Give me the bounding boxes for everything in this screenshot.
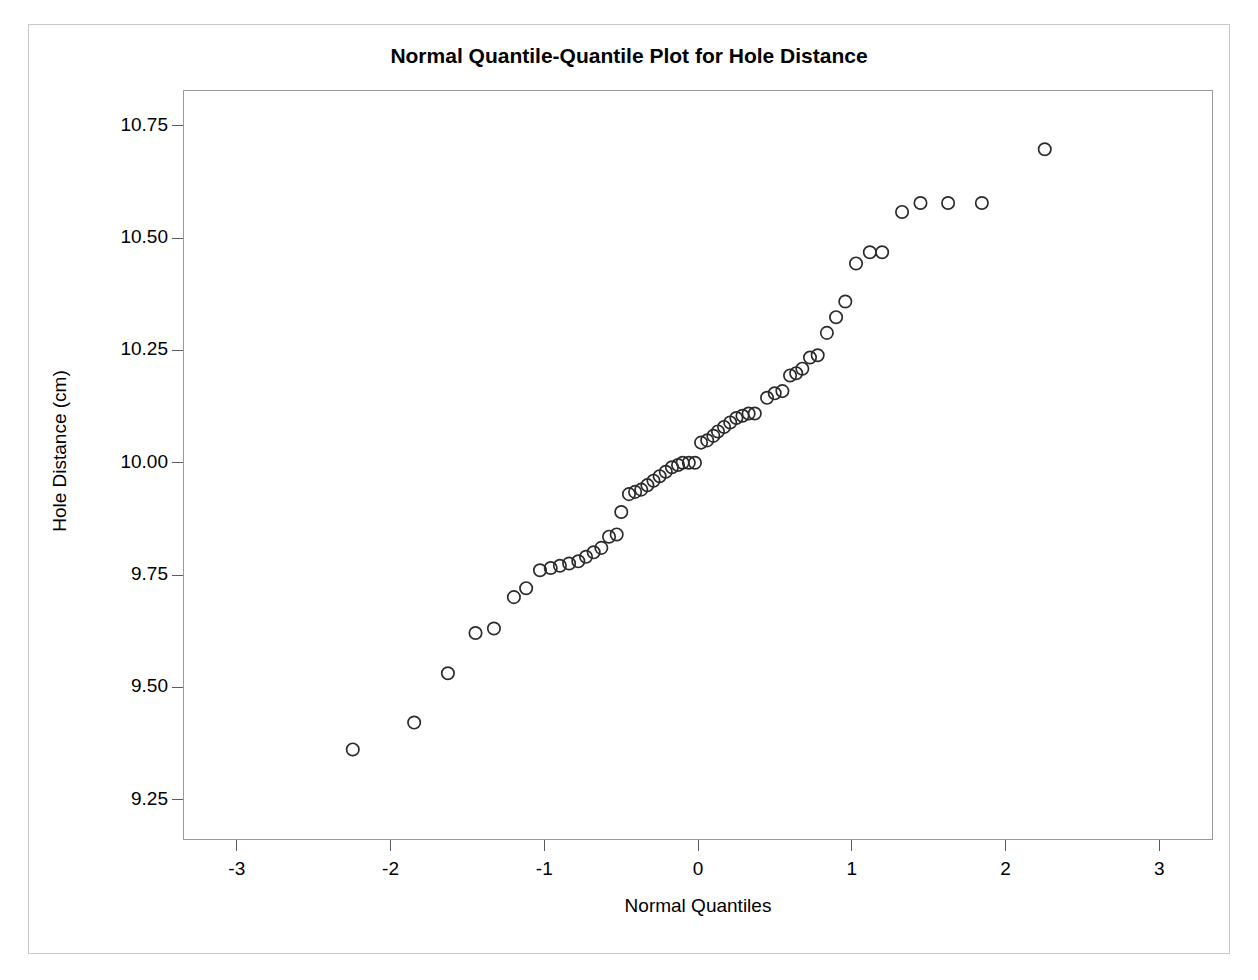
data-point [850, 257, 862, 269]
data-point [811, 349, 823, 361]
data-point [610, 528, 622, 540]
y-tick-label: 10.25 [30, 338, 168, 360]
data-point [1039, 143, 1051, 155]
data-point [821, 327, 833, 339]
x-axis-title: Normal Quantiles [183, 895, 1213, 917]
x-tick-label: -1 [504, 858, 584, 880]
data-point [804, 351, 816, 363]
data-point [488, 622, 500, 634]
data-point [942, 197, 954, 209]
x-tick-label: 0 [658, 858, 738, 880]
data-point [520, 582, 532, 594]
data-point [839, 295, 851, 307]
data-point [864, 246, 876, 258]
y-tick-label: 9.75 [30, 563, 168, 585]
plot-area [183, 90, 1213, 840]
y-tick-label: 10.00 [30, 451, 168, 473]
data-point [976, 197, 988, 209]
x-tick-label: 1 [812, 858, 892, 880]
x-tick-label: 2 [965, 858, 1045, 880]
data-point [469, 627, 481, 639]
data-point [776, 385, 788, 397]
chart-title: Normal Quantile-Quantile Plot for Hole D… [0, 44, 1258, 68]
data-point [615, 506, 627, 518]
x-tick-label: -3 [197, 858, 277, 880]
data-point [442, 667, 454, 679]
y-tick-label: 9.50 [30, 675, 168, 697]
y-tick-label: 10.75 [30, 114, 168, 136]
x-tick-label: -2 [351, 858, 431, 880]
chart-figure: Normal Quantile-Quantile Plot for Hole D… [0, 0, 1258, 980]
data-point [408, 716, 420, 728]
x-tick-label: 3 [1119, 858, 1199, 880]
y-tick-label: 10.50 [30, 226, 168, 248]
data-point [914, 197, 926, 209]
y-tick-label: 9.25 [30, 788, 168, 810]
data-point [508, 591, 520, 603]
data-point [347, 743, 359, 755]
data-point [603, 530, 615, 542]
data-point [896, 206, 908, 218]
data-point [830, 311, 842, 323]
data-points-layer [184, 91, 1212, 839]
data-point [876, 246, 888, 258]
